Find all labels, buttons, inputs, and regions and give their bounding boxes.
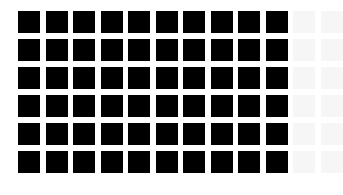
filled-square (18, 151, 40, 173)
filled-square (46, 39, 68, 61)
filled-square (238, 151, 260, 173)
faint-square (293, 39, 315, 61)
faint-square (293, 67, 315, 89)
filled-square (128, 123, 150, 145)
filled-square (46, 123, 68, 145)
faint-square (321, 39, 343, 61)
filled-square (101, 123, 123, 145)
filled-square (183, 95, 205, 117)
faint-square (321, 67, 343, 89)
filled-square (73, 151, 95, 173)
filled-square (18, 39, 40, 61)
faint-square (293, 95, 315, 117)
filled-square (156, 11, 178, 33)
filled-square (101, 39, 123, 61)
filled-square (183, 67, 205, 89)
faint-square (321, 151, 343, 173)
filled-square (211, 11, 233, 33)
filled-square (18, 123, 40, 145)
faint-square (293, 151, 315, 173)
filled-square (211, 67, 233, 89)
filled-square (238, 67, 260, 89)
filled-square (266, 151, 288, 173)
faint-square (321, 123, 343, 145)
filled-square (46, 151, 68, 173)
filled-square (73, 39, 95, 61)
filled-square (46, 95, 68, 117)
faint-square (321, 95, 343, 117)
filled-square (101, 151, 123, 173)
faint-square (293, 11, 315, 33)
filled-square (156, 67, 178, 89)
filled-square (73, 11, 95, 33)
filled-square (18, 11, 40, 33)
faint-square (293, 123, 315, 145)
filled-square (183, 39, 205, 61)
filled-square (101, 11, 123, 33)
filled-square (266, 123, 288, 145)
filled-square (46, 11, 68, 33)
filled-square (238, 123, 260, 145)
filled-square (266, 95, 288, 117)
filled-square (266, 11, 288, 33)
filled-square (238, 39, 260, 61)
filled-square (46, 67, 68, 89)
filled-square (73, 67, 95, 89)
filled-square (156, 39, 178, 61)
filled-square (156, 95, 178, 117)
filled-square (266, 67, 288, 89)
filled-square (128, 67, 150, 89)
filled-square (156, 151, 178, 173)
filled-square (266, 39, 288, 61)
filled-square (211, 39, 233, 61)
filled-square (238, 95, 260, 117)
filled-square (18, 67, 40, 89)
filled-square (183, 151, 205, 173)
faint-square (321, 11, 343, 33)
filled-square (18, 95, 40, 117)
filled-square (101, 67, 123, 89)
filled-square (128, 39, 150, 61)
filled-square (101, 95, 123, 117)
filled-square (238, 11, 260, 33)
filled-square (128, 95, 150, 117)
filled-square (183, 123, 205, 145)
filled-square (156, 123, 178, 145)
filled-square (211, 95, 233, 117)
filled-square (73, 123, 95, 145)
filled-square (211, 151, 233, 173)
filled-square (183, 11, 205, 33)
filled-square (128, 151, 150, 173)
filled-square (73, 95, 95, 117)
filled-square (211, 123, 233, 145)
filled-square (128, 11, 150, 33)
